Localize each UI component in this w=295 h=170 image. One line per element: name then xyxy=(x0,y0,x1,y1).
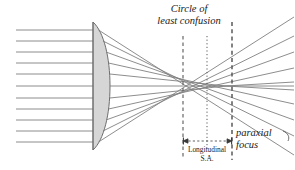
spherical-aberration-diagram: Circle of least confusion paraxial focus… xyxy=(0,0,294,170)
circle-of-least-confusion-label-line2: least confusion xyxy=(143,15,235,27)
lens-body xyxy=(93,22,110,150)
paraxial-focus-label-line2: focus xyxy=(236,139,292,151)
longitudinal-sa-label: Longitudinal S.A. xyxy=(171,145,243,164)
refracted-ray-marginal-bottom xyxy=(99,17,295,142)
paraxial-focus-label: paraxial focus xyxy=(236,127,292,151)
longitudinal-sa-label-line1: Longitudinal xyxy=(171,145,243,154)
circle-of-least-confusion-label: Circle of least confusion xyxy=(143,3,235,27)
circle-of-least-confusion-label-line1: Circle of xyxy=(143,3,235,15)
longitudinal-sa-label-line2: S.A. xyxy=(171,154,243,163)
paraxial-focus-label-line1: paraxial xyxy=(236,127,292,139)
longitudinal-sa-arrow xyxy=(183,138,232,145)
